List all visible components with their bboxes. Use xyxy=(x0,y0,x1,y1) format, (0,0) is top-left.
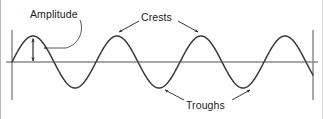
trough-pointer-left xyxy=(165,90,184,100)
boundary-markers xyxy=(12,30,313,100)
troughs-label: Troughs xyxy=(186,99,225,111)
crests-label: Crests xyxy=(141,11,172,23)
crest-pointer-right xyxy=(178,21,198,32)
amplitude-leader-line xyxy=(44,20,81,48)
wave-diagram: Amplitude Crests Troughs xyxy=(0,0,323,119)
crest-pointer-left xyxy=(119,21,139,32)
amplitude-label: Amplitude xyxy=(30,8,78,20)
trough-pointer-right xyxy=(232,90,250,100)
